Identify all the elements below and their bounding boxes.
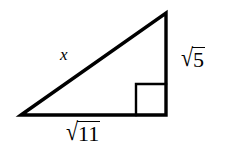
radical-expression: √5 — [181, 47, 205, 71]
radical-sign-icon: √ — [181, 46, 193, 71]
radicand-value: 11 — [77, 121, 100, 145]
triangle-drawing — [0, 0, 228, 155]
radicand-value: 5 — [192, 47, 205, 71]
radical-sign-icon: √ — [66, 120, 78, 145]
horizontal-leg-label: √11 — [66, 121, 100, 145]
hypotenuse-label: x — [60, 46, 68, 63]
vertical-leg-label: √5 — [181, 47, 205, 71]
right-angle-marker — [136, 84, 166, 115]
radical-expression: √11 — [66, 121, 100, 145]
right-triangle-figure: x √5 √11 — [0, 0, 228, 155]
triangle-outline — [21, 13, 166, 115]
